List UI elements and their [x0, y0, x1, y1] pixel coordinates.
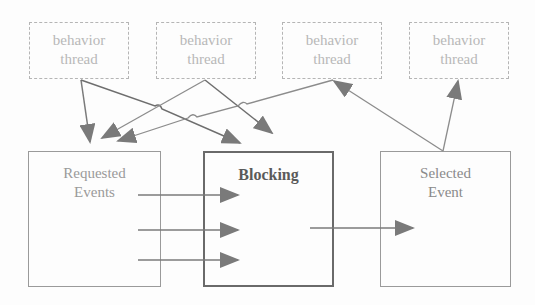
thread-1-label-line1: behavior — [30, 31, 128, 50]
arrow-selected-to-thread3 — [334, 81, 443, 151]
behavior-thread-3: behavior thread — [282, 22, 382, 79]
requested-events-box: Requested Events — [28, 151, 161, 287]
arrow-thread2-to-requested — [102, 80, 205, 138]
behavior-thread-1: behavior thread — [29, 22, 129, 79]
arrow-thread1-to-blocking — [81, 80, 240, 143]
thread-1-label-line2: thread — [30, 50, 128, 69]
selected-event-box: Selected Event — [380, 151, 511, 287]
blocking-box: Blocking — [203, 151, 334, 287]
thread-3-label-line1: behavior — [283, 31, 381, 50]
blocking-label: Blocking — [205, 165, 332, 184]
thread-2-label-line2: thread — [157, 50, 255, 69]
requested-events-label-line2: Events — [29, 183, 160, 202]
arrow-thread2-to-blocking — [205, 80, 272, 133]
thread-3-label-line2: thread — [283, 50, 381, 69]
thread-2-label-line1: behavior — [157, 31, 255, 50]
arrow-selected-to-thread4 — [443, 81, 458, 151]
arrow-thread1-to-requested — [81, 80, 90, 142]
thread-4-label-line1: behavior — [410, 31, 508, 50]
behavioral-programming-diagram: behavior thread behavior thread behavior… — [0, 0, 535, 305]
thread-4-label-line2: thread — [410, 50, 508, 69]
arrow-thread3-to-requested — [118, 80, 333, 141]
selected-event-label-line1: Selected — [381, 164, 510, 183]
requested-events-label-line1: Requested — [29, 164, 160, 183]
behavior-thread-4: behavior thread — [409, 22, 509, 79]
behavior-thread-2: behavior thread — [156, 22, 256, 79]
selected-event-label-line2: Event — [381, 183, 510, 202]
